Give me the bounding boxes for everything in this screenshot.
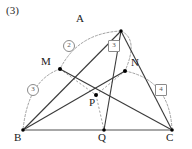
vertex-label-p: P	[89, 97, 95, 108]
vertex-label-n: N	[131, 57, 139, 68]
segment-p-q-line	[96, 95, 104, 130]
vertex-label-c: C	[166, 132, 173, 143]
vertex-label-m: M	[41, 56, 51, 67]
segment-b-n-line	[23, 71, 125, 130]
arc-m-b-path	[23, 69, 60, 130]
arc-n-c-path	[125, 71, 172, 130]
point-n	[123, 69, 127, 73]
geometry-figure: (3) A M N P B Q C 2 3 3 4	[0, 0, 192, 149]
ratio-label-mb: 3	[27, 84, 39, 96]
problem-number: (3)	[6, 5, 19, 16]
ratio-label-nc: 4	[155, 84, 167, 96]
vertex-label-b: B	[14, 132, 21, 143]
vertex-points	[21, 29, 174, 132]
point-b	[21, 128, 25, 132]
point-m	[58, 67, 62, 71]
vertex-label-a: A	[76, 13, 84, 24]
arc-a-n-path	[121, 31, 131, 71]
solid-segments	[23, 31, 172, 130]
point-a	[119, 29, 122, 32]
ratio-label-an: 3	[108, 40, 120, 52]
vertex-label-q: Q	[98, 132, 106, 143]
segment-a-c-line	[121, 31, 172, 130]
figure-canvas	[0, 0, 192, 149]
dashed-arcs	[23, 31, 172, 130]
ratio-label-am: 2	[63, 40, 75, 52]
